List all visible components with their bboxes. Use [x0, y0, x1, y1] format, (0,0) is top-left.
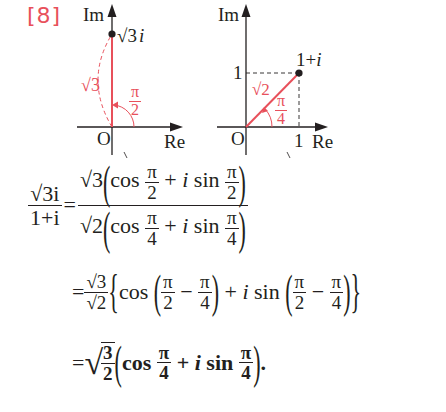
- arg-den: 2: [129, 101, 141, 119]
- left-origin-label: O: [97, 128, 111, 150]
- coef-fraction: √3 √2: [84, 272, 108, 313]
- left-argument-label: π 2: [129, 84, 141, 119]
- left-re-label: Re: [164, 131, 185, 153]
- a-den: 2: [161, 292, 175, 313]
- right-origin-label: O: [231, 128, 245, 150]
- angle-arc: [265, 109, 272, 127]
- b-num: π: [330, 272, 344, 292]
- plus-i-sin: + i sin: [164, 167, 219, 192]
- sin: sin: [206, 350, 233, 375]
- lhs-denominator: 1+i: [28, 205, 62, 229]
- angle-num: π: [239, 343, 253, 363]
- point-sqrt3i: [108, 30, 115, 37]
- right-point-label: 1+i: [296, 49, 322, 71]
- angle-den: 4: [157, 362, 171, 383]
- equals-sign: =: [72, 279, 84, 304]
- minus: −: [180, 279, 192, 304]
- cos: cos: [122, 350, 151, 375]
- point-label-root: √3: [117, 25, 137, 46]
- b-den: 4: [198, 292, 212, 313]
- arg-num: π: [275, 93, 287, 110]
- minus: −: [312, 279, 324, 304]
- root-den: 2: [101, 363, 115, 384]
- point-label-var: i: [139, 25, 144, 46]
- right-im-tick-label: 1: [233, 62, 243, 84]
- right-re-label: Re: [312, 131, 333, 153]
- angle-den: 2: [225, 182, 239, 203]
- equals-sign: =: [72, 350, 84, 375]
- a-den: 2: [293, 292, 307, 313]
- right-im-label: Im: [218, 4, 239, 26]
- right-argument-label: π 4: [275, 93, 287, 128]
- plus: +: [177, 350, 190, 375]
- cos: cos: [119, 279, 148, 304]
- equation-line-2: = √3 √2 {cos (π2 − π4) + i sin (π2 − π4)…: [72, 272, 361, 313]
- point-label-text: 1+i: [296, 49, 322, 70]
- coef-num: √3: [84, 272, 108, 292]
- lhs-fraction: √3i 1+i: [28, 182, 62, 229]
- cos: cos: [110, 213, 139, 238]
- a-num: π: [161, 272, 175, 292]
- angle-num: π: [145, 162, 159, 182]
- arg-num: π: [129, 84, 141, 101]
- coef-den: √2: [84, 292, 108, 313]
- b-num: π: [198, 272, 212, 292]
- im-axis-arrow-icon: [242, 4, 251, 17]
- cos: cos: [110, 167, 139, 192]
- angle-den: 4: [145, 228, 159, 249]
- plus-i-sin: + i sin: [225, 279, 280, 304]
- equation-line-3: =√ 3 2 (cos π4 + i sin π4).: [72, 342, 266, 384]
- equals-sign: =: [64, 192, 76, 217]
- coef: √2: [80, 213, 103, 238]
- root-num: 3: [101, 343, 115, 363]
- modulus-arc: [98, 34, 112, 127]
- angle-num: π: [225, 208, 239, 228]
- arg-den: 4: [275, 110, 287, 128]
- coef: √3: [80, 167, 103, 192]
- angle-num: π: [145, 208, 159, 228]
- rhs-denominator: √2(cos π4 + i sin π4): [78, 205, 248, 249]
- b-den: 4: [330, 292, 344, 313]
- period: .: [261, 350, 267, 375]
- left-point-label: √3i: [117, 25, 144, 47]
- left-modulus-label: √3: [81, 75, 100, 96]
- right-modulus-label: √2: [252, 80, 270, 100]
- angle-den: 4: [239, 362, 253, 383]
- left-im-label: Im: [83, 4, 104, 26]
- plus-i-sin: + i sin: [164, 213, 219, 238]
- angle-den: 2: [145, 182, 159, 203]
- rhs-fraction: √3(cos π2 + i sin π2) √2(cos π4 + i sin …: [78, 162, 248, 249]
- angle-num: π: [157, 343, 171, 363]
- angle-den: 4: [225, 228, 239, 249]
- equation-line-1: √3i 1+i = √3(cos π2 + i sin π2) √2(cos π…: [28, 162, 248, 249]
- rhs-numerator: √3(cos π2 + i sin π2): [78, 162, 248, 205]
- right-re-tick-label: 1: [294, 130, 304, 152]
- lhs-numerator: √3i: [28, 182, 62, 205]
- root-fraction: 3 2: [101, 342, 115, 384]
- im-axis-arrow-icon: [108, 4, 117, 17]
- imag-unit: i: [195, 350, 201, 375]
- angle-num: π: [225, 162, 239, 182]
- a-num: π: [293, 272, 307, 292]
